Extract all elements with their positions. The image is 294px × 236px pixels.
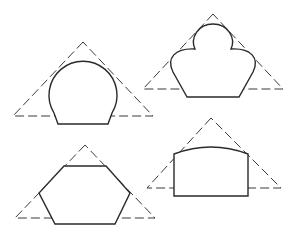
- panel-hexagon: [15, 145, 155, 224]
- clover-shape: [171, 24, 256, 97]
- truncated-circle-shape: [49, 61, 117, 124]
- panel-clover: [143, 14, 283, 97]
- diagram-canvas: [0, 0, 294, 236]
- panel-arched-rectangle: [147, 118, 281, 196]
- hexagon-shape: [39, 166, 130, 224]
- panel-circle: [13, 42, 153, 124]
- arched-rectangle-shape: [174, 147, 248, 196]
